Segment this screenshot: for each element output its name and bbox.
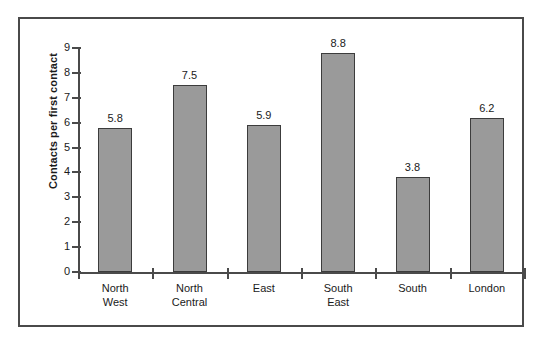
y-tick-mark: [72, 122, 81, 124]
plot-area: 0123456789 5.87.55.98.83.86.2: [78, 48, 524, 272]
bar[interactable]: [173, 85, 207, 272]
bar[interactable]: [396, 177, 430, 272]
x-tick-mark: [301, 268, 303, 279]
y-tick-mark: [72, 147, 81, 149]
bar[interactable]: [470, 118, 504, 272]
y-tick-mark: [72, 221, 81, 223]
y-tick-label: 1: [52, 241, 70, 252]
y-tick-mark: [72, 246, 81, 248]
y-tick-label: 2: [52, 216, 70, 227]
bar-value-label: 8.8: [313, 37, 363, 49]
x-tick-mark: [375, 268, 377, 279]
chart-screenshot: Contacts per first contact 0123456789 5.…: [0, 0, 542, 343]
x-category-label-line2: East: [293, 295, 383, 309]
x-tick-mark: [152, 268, 154, 279]
y-tick-mark: [72, 72, 81, 74]
bar[interactable]: [321, 53, 355, 272]
x-tick-mark: [524, 268, 526, 279]
bar-value-label: 6.2: [462, 102, 512, 114]
y-tick-label: 6: [52, 117, 70, 128]
x-category-label-line1: London: [442, 281, 532, 295]
y-tick-label: 7: [52, 92, 70, 103]
x-category-label-line2: Central: [145, 295, 235, 309]
y-tick-label: 3: [52, 191, 70, 202]
y-tick-mark: [72, 171, 81, 173]
y-tick-label: 9: [52, 42, 70, 53]
bar-value-label: 5.8: [90, 112, 140, 124]
bar[interactable]: [247, 125, 281, 272]
y-tick-label: 5: [52, 142, 70, 153]
x-tick-mark: [450, 268, 452, 279]
y-tick-label: 4: [52, 166, 70, 177]
figure-frame: Contacts per first contact 0123456789 5.…: [18, 17, 524, 327]
x-tick-mark: [78, 268, 80, 279]
y-axis-line: [78, 48, 80, 272]
bar-value-label: 5.9: [239, 109, 289, 121]
bar-value-label: 3.8: [388, 161, 438, 173]
x-tick-mark: [227, 268, 229, 279]
x-category-label: London: [442, 281, 532, 295]
y-tick-mark: [72, 97, 81, 99]
y-tick-mark: [72, 47, 81, 49]
bar[interactable]: [98, 128, 132, 272]
bar-value-label: 7.5: [165, 69, 215, 81]
y-tick-label: 0: [52, 266, 70, 277]
y-tick-label: 8: [52, 67, 70, 78]
y-tick-mark: [72, 196, 81, 198]
